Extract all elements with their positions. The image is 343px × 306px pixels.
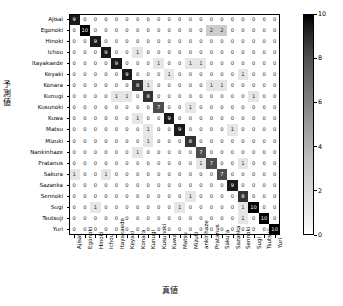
heatmap-cell: 0 bbox=[164, 25, 175, 36]
heatmap-cell: 0 bbox=[196, 36, 207, 47]
heatmap-cell: 0 bbox=[185, 36, 196, 47]
heatmap-cell: 0 bbox=[269, 102, 280, 113]
heatmap-cell: 0 bbox=[101, 102, 112, 113]
heatmap-cell: 0 bbox=[227, 69, 238, 80]
heatmap-cell: 0 bbox=[217, 147, 228, 158]
heatmap-cell: 0 bbox=[174, 169, 185, 180]
heatmap-cell: 0 bbox=[248, 113, 259, 124]
heatmap-cell: 0 bbox=[217, 113, 228, 124]
heatmap-cell: 0 bbox=[206, 47, 217, 58]
heatmap-cell: 0 bbox=[248, 47, 259, 58]
heatmap-cell: 0 bbox=[227, 14, 238, 25]
heatmap-cell: 0 bbox=[153, 14, 164, 25]
heatmap-cell: 0 bbox=[111, 147, 122, 158]
heatmap-cell: 0 bbox=[122, 191, 133, 202]
heatmap-cell: 0 bbox=[227, 169, 238, 180]
x-axis-tick bbox=[254, 235, 255, 238]
heatmap-cell: 0 bbox=[80, 213, 91, 224]
colorbar bbox=[303, 14, 314, 235]
heatmap-cell: 0 bbox=[143, 147, 154, 158]
x-axis-tick bbox=[233, 235, 234, 238]
heatmap-cell: 0 bbox=[206, 58, 217, 69]
heatmap-cell: 7 bbox=[196, 147, 207, 158]
x-axis-tick-label: Konara bbox=[140, 238, 146, 249]
heatmap-cell: 0 bbox=[164, 202, 175, 213]
heatmap-cell: 0 bbox=[90, 113, 101, 124]
heatmap-cell: 0 bbox=[185, 91, 196, 102]
heatmap-cell: 0 bbox=[90, 69, 101, 80]
heatmap-cell: 0 bbox=[248, 124, 259, 135]
heatmap-cell: 0 bbox=[80, 113, 91, 124]
heatmap-cell: 0 bbox=[164, 213, 175, 224]
table-row: 00000000000017001000 bbox=[69, 158, 280, 169]
x-axis-tick-label: Tsutsuji bbox=[266, 238, 272, 249]
y-axis-tick-label: Hinoki bbox=[14, 36, 66, 47]
heatmap-cell: 0 bbox=[111, 180, 122, 191]
heatmap-cell: 0 bbox=[269, 80, 280, 91]
heatmap-cell: 0 bbox=[132, 136, 143, 147]
colorbar-tick-label: 2 bbox=[314, 188, 322, 194]
heatmap-cell: 0 bbox=[227, 36, 238, 47]
heatmap-cell: 1 bbox=[185, 102, 196, 113]
y-axis-tick-label: Pratanus bbox=[14, 158, 66, 169]
heatmap-cell: 0 bbox=[80, 91, 91, 102]
heatmap-cell: 0 bbox=[238, 25, 249, 36]
heatmap-cell: 0 bbox=[69, 147, 80, 158]
heatmap-cell: 0 bbox=[143, 47, 154, 58]
heatmap-cell: 0 bbox=[174, 180, 185, 191]
heatmap-cell: 0 bbox=[164, 80, 175, 91]
heatmap-cell: 0 bbox=[122, 80, 133, 91]
heatmap-cell: 0 bbox=[269, 91, 280, 102]
heatmap-cell: 0 bbox=[153, 25, 164, 36]
heatmap-cell: 0 bbox=[217, 180, 228, 191]
x-axis-tick-label: Sakura bbox=[224, 238, 230, 249]
heatmap-cell: 10 bbox=[259, 213, 270, 224]
heatmap-cell: 10 bbox=[80, 25, 91, 36]
heatmap-cell: 0 bbox=[69, 191, 80, 202]
heatmap-cell: 0 bbox=[101, 91, 112, 102]
heatmap-cell: 0 bbox=[174, 213, 185, 224]
heatmap-cell: 0 bbox=[238, 36, 249, 47]
heatmap-cell: 10 bbox=[248, 202, 259, 213]
heatmap-cell: 0 bbox=[196, 124, 207, 135]
heatmap-cell: 0 bbox=[101, 124, 112, 135]
x-axis-tick-label: Ichou bbox=[108, 238, 114, 249]
x-axis-tick-label: Hinoki bbox=[98, 238, 104, 249]
heatmap-cell: 1 bbox=[238, 69, 249, 80]
heatmap-cell: 0 bbox=[259, 69, 270, 80]
heatmap-cell: 0 bbox=[196, 14, 207, 25]
heatmap-cell: 9 bbox=[227, 180, 238, 191]
table-row: 000000000000000010100 bbox=[69, 213, 280, 224]
heatmap-cell: 0 bbox=[90, 14, 101, 25]
heatmap-cell: 1 bbox=[238, 158, 249, 169]
heatmap-cell: 0 bbox=[69, 213, 80, 224]
heatmap-cell: 0 bbox=[69, 80, 80, 91]
heatmap-cell: 0 bbox=[248, 80, 259, 91]
y-axis-label: 予 測 値 bbox=[0, 80, 14, 107]
heatmap-cell: 0 bbox=[80, 80, 91, 91]
y-axis-tick-label: Konara bbox=[14, 80, 66, 91]
heatmap-grid: 9000000000000000000001000000000000220000… bbox=[69, 14, 280, 235]
heatmap-cell: 0 bbox=[217, 14, 228, 25]
heatmap-cell: 0 bbox=[269, 180, 280, 191]
heatmap-cell: 0 bbox=[238, 47, 249, 58]
heatmap-cell: 8 bbox=[132, 80, 143, 91]
heatmap-cell: 0 bbox=[227, 47, 238, 58]
heatmap-cell: 0 bbox=[122, 102, 133, 113]
heatmap-cell: 0 bbox=[132, 169, 143, 180]
heatmap-cell: 1 bbox=[248, 91, 259, 102]
y-axis-tick-label: Kusunoki bbox=[14, 102, 66, 113]
heatmap-cell: 0 bbox=[227, 147, 238, 158]
table-row: 00000000000000090000 bbox=[69, 180, 280, 191]
heatmap-cell: 0 bbox=[69, 36, 80, 47]
heatmap-cell: 0 bbox=[122, 169, 133, 180]
heatmap-cell: 0 bbox=[164, 158, 175, 169]
heatmap-cell: 0 bbox=[101, 113, 112, 124]
heatmap-cell: 0 bbox=[227, 136, 238, 147]
heatmap-cell: 0 bbox=[153, 158, 164, 169]
heatmap-cell: 0 bbox=[132, 25, 143, 36]
heatmap-cell: 0 bbox=[153, 91, 164, 102]
heatmap-cell: 0 bbox=[206, 14, 217, 25]
heatmap-cell: 0 bbox=[248, 14, 259, 25]
heatmap-cell: 0 bbox=[248, 191, 259, 202]
